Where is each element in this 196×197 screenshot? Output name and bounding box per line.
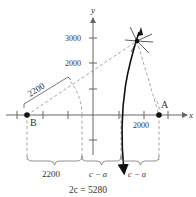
hyperbola-top-arrow-icon (138, 27, 143, 36)
hyperbola-branch-curve (122, 32, 139, 172)
x-axis-label: x (188, 110, 193, 120)
x-tick-label-2000: 2000 (133, 121, 149, 130)
y-axis-label: y (90, 5, 95, 15)
equation-2c: 2c = 5280 (69, 185, 107, 195)
y-tick-label-3000: 3000 (65, 34, 81, 43)
hyperbola-location-diagram: x 2000 y 3000 2000 2200 (0, 0, 196, 197)
bottom-label-c-minus-a-2: c − a (128, 169, 146, 179)
y-tick-label-2000: 2000 (65, 59, 81, 68)
distance-label-2200: 2200 (26, 80, 47, 98)
point-a-label: A (161, 99, 169, 110)
distance-bracket-2200: 2200 (24, 77, 71, 108)
bottom-braces (27, 156, 159, 165)
bottom-label-2200: 2200 (42, 169, 61, 179)
y-axis: y 3000 2000 (65, 5, 97, 155)
bottom-label-c-minus-a-1: c − a (89, 169, 107, 179)
point-b-label: B (30, 117, 37, 128)
